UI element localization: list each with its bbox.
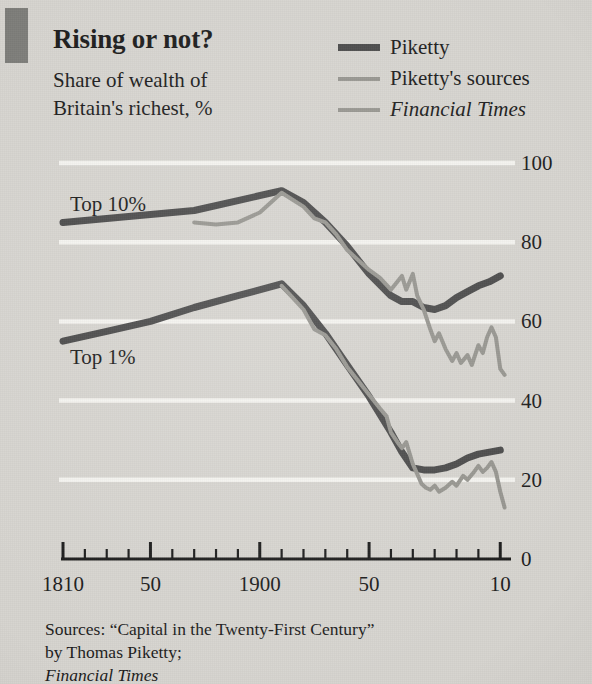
y-axis-tick-label-20: 20 xyxy=(521,467,542,492)
series-label-top10: Top 10% xyxy=(70,192,146,217)
series-line-top10-sources xyxy=(194,193,504,375)
x-axis-tick-label-1850: 50 xyxy=(140,572,161,597)
x-axis-tick-label-1900: 1900 xyxy=(239,572,281,597)
source-line-2-italic: Financial Times xyxy=(45,664,575,684)
y-axis-tick-label-0: 0 xyxy=(521,547,532,572)
y-axis-tick-label-40: 40 xyxy=(521,388,542,413)
x-axis-tick-label-1950: 50 xyxy=(359,572,380,597)
y-axis-tick-label-60: 60 xyxy=(521,309,542,334)
x-axis-tick-label-1810: 1810 xyxy=(42,572,84,597)
y-axis-tick-label-80: 80 xyxy=(521,230,542,255)
source-line-1: Sources: “Capital in the Twenty-First Ce… xyxy=(45,618,575,641)
x-axis-tick-label-2010: 10 xyxy=(490,572,511,597)
source-note: Sources: “Capital in the Twenty-First Ce… xyxy=(45,618,575,684)
source-line-2-plain: by Thomas Piketty; xyxy=(45,641,575,664)
source-line-2: by Thomas Piketty; Financial Times xyxy=(45,641,575,684)
series-label-top1: Top 1% xyxy=(70,345,136,370)
y-axis-tick-label-100: 100 xyxy=(521,151,553,176)
